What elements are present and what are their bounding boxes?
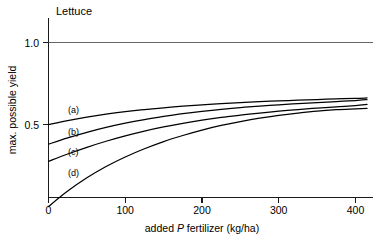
curve-d <box>49 108 368 206</box>
y-tick-label-0.5: 0.5 <box>24 119 39 131</box>
chart-title: Lettuce <box>56 5 92 17</box>
x-axis-title: added P fertilizer (kg/ha) <box>145 222 259 234</box>
curve-label-b: (b) <box>68 127 79 137</box>
lettuce-yield-chart: Lettuce 1.0 0.5 0 100 200 300 400 added … <box>0 0 383 238</box>
curve-b <box>49 100 368 145</box>
x-tick-label-200: 200 <box>193 204 211 216</box>
x-axis-title-pre: added <box>145 222 177 234</box>
x-tick-label-400: 400 <box>347 204 365 216</box>
y-axis-title: max. possible yield <box>6 65 18 154</box>
y-axis-ticks <box>43 43 49 125</box>
curve-label-d: (d) <box>68 168 79 178</box>
x-tick-label-300: 300 <box>270 204 288 216</box>
curve-label-c: (c) <box>68 147 79 157</box>
x-axis-title-italic: P <box>177 222 184 234</box>
y-tick-label-1.0: 1.0 <box>24 37 39 49</box>
chart-figure: Lettuce 1.0 0.5 0 100 200 300 400 added … <box>0 0 383 238</box>
curve-label-a: (a) <box>68 105 79 115</box>
data-curves <box>49 98 368 207</box>
curve-c <box>49 104 368 161</box>
x-axis-ticks <box>49 198 356 204</box>
x-tick-label-100: 100 <box>116 204 134 216</box>
x-tick-label-0: 0 <box>46 204 52 216</box>
x-axis-title-post: fertilizer (kg/ha) <box>184 222 259 234</box>
